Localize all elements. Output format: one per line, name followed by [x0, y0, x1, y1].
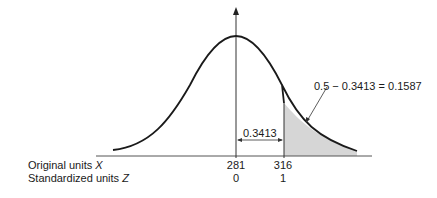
arrow-up-icon [233, 7, 239, 15]
original-units-row: Original units X [28, 159, 103, 171]
row-variable: Z [122, 172, 129, 184]
bell-curve [113, 36, 357, 151]
x-value-316: 316 [268, 159, 298, 171]
arrow-left-icon [237, 138, 242, 142]
tail-leader-line [307, 87, 327, 121]
arrow-right-icon [278, 138, 283, 142]
leader-arrow-icon [306, 117, 310, 123]
row-variable: X [95, 159, 102, 171]
row-label: Original units [28, 159, 92, 171]
z-value-0: 0 [221, 172, 251, 184]
z-value-1: 1 [268, 172, 298, 184]
tail-area-label: 0.5 − 0.3413 = 0.1587 [314, 80, 422, 92]
shaded-tail-region [284, 103, 357, 156]
x-value-mean: 281 [221, 159, 251, 171]
area-between-label: 0.3413 [243, 127, 277, 139]
standardized-units-row: Standardized units Z [28, 172, 129, 184]
row-label: Standardized units [28, 172, 119, 184]
